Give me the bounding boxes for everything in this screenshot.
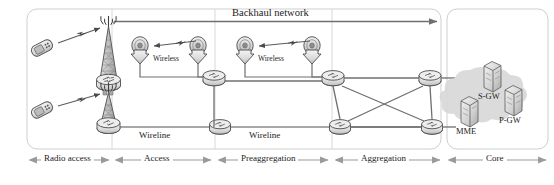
- p-gw-server-icon: [505, 86, 522, 117]
- aggregation-mesh-links: [333, 78, 432, 127]
- microwave-antenna-icon-1: [131, 37, 149, 64]
- mme-server-icon: [461, 97, 478, 128]
- access-network-boundary-box: [27, 9, 441, 149]
- router-icon-tower-2: [97, 118, 120, 134]
- wireless-label-1: Wireless: [153, 54, 179, 63]
- cell-tower-icon-2: [97, 83, 120, 134]
- s-gw-label: S-GW: [478, 91, 500, 101]
- radio-link-2: [58, 94, 100, 106]
- section-label-aggregation: Aggregation: [358, 153, 409, 163]
- router-icon-preagg-upper: [203, 71, 225, 86]
- mobile-phone-icon-1: [30, 38, 55, 58]
- section-label-preaggregation: Preaggregation: [238, 153, 298, 163]
- antenna-to-router-links: [140, 64, 322, 77]
- microwave-antenna-icon-4: [303, 37, 321, 64]
- section-label-core: Core: [483, 153, 507, 163]
- network-architecture-figure: Backhaul network Wireless Wireless Wirel…: [0, 0, 554, 185]
- backhaul-network-label: Backhaul network: [232, 7, 309, 18]
- router-icon-agg-lower-left: [330, 120, 351, 135]
- mobile-phone-icon-2: [30, 100, 55, 120]
- router-icon-agg-lower-right: [422, 120, 443, 135]
- wireless-hop-link-2: [259, 41, 310, 46]
- section-label-access: Access: [141, 153, 173, 163]
- radio-link-1: [58, 28, 100, 43]
- preagg-to-agg-links: [214, 81, 322, 127]
- microwave-antenna-icon-2: [189, 37, 207, 64]
- wireline-label-1: Wireline: [139, 130, 170, 140]
- router-icon-agg-upper-right: [419, 71, 441, 86]
- p-gw-label: P-GW: [499, 115, 521, 125]
- microwave-antenna-icon-3: [236, 37, 254, 64]
- wireless-label-2: Wireless: [258, 54, 284, 63]
- s-gw-server-icon: [484, 62, 501, 93]
- router-icon-agg-upper-left: [322, 71, 344, 86]
- mme-label: MME: [456, 126, 476, 136]
- router-icon-preagg-lower: [210, 120, 231, 135]
- section-label-radio-access: Radio access: [41, 153, 94, 163]
- wireline-label-2: Wireline: [249, 130, 280, 140]
